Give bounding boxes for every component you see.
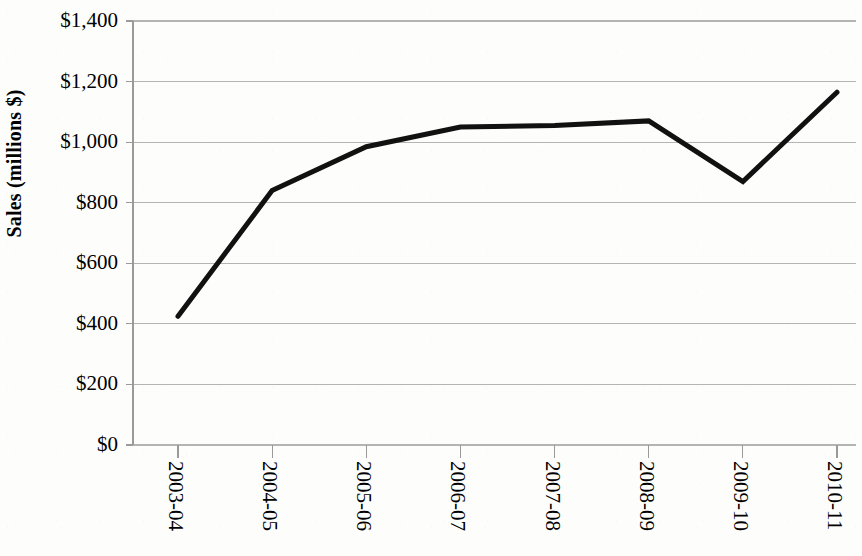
- data-series-group: [178, 92, 837, 316]
- y-axis-ticks-group: [126, 21, 133, 445]
- chart-figure: Sales (millions $) $0$200$400$600$800$1,…: [0, 0, 862, 556]
- x-axis-tick-label: 2010-11: [824, 461, 845, 556]
- x-axis-tick-label: 2004-05: [259, 461, 280, 556]
- x-axis-tick-label: 2009-10: [730, 461, 751, 556]
- x-axis-tick-label: 2005-06: [353, 461, 374, 556]
- x-axis-tick-label: 2006-07: [447, 461, 468, 556]
- x-axis-tick-label: 2008-09: [636, 461, 657, 556]
- data-line: [178, 92, 837, 316]
- x-axis-tick-label: 2003-04: [165, 461, 186, 556]
- x-axis-ticks-group: [178, 445, 837, 458]
- x-axis-tick-label: 2007-08: [542, 461, 563, 556]
